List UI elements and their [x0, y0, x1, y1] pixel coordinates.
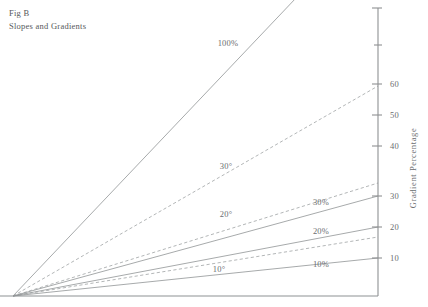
series-label-30-percent: 30%: [313, 197, 329, 207]
ray-100-percent: [13, 0, 296, 296]
tick-label-60: 60: [390, 79, 399, 89]
ray-group-percent: [13, 0, 378, 296]
tick-label-40: 40: [390, 141, 399, 151]
series-label-30-degrees: 30°: [220, 161, 233, 171]
series-labels: 100% 30° 20° 30% 20% 10° 10%: [213, 38, 329, 274]
tick-label-20: 20: [390, 222, 399, 232]
plot-rays: [13, 0, 378, 296]
y-axis-title: Gradient Percentage: [408, 128, 418, 209]
series-label-20-degrees: 20°: [220, 209, 233, 219]
series-label-10-degrees: 10°: [213, 264, 226, 274]
axes: 60 50 40 30 20 10 Gradient Percentage: [0, 8, 418, 296]
figure-root: Fig B Slopes and Gradients: [0, 0, 428, 307]
series-label-10-percent: 10%: [313, 259, 329, 269]
y-axis-tick-labels: 60 50 40 30 20 10: [390, 79, 399, 263]
tick-label-50: 50: [390, 110, 399, 120]
tick-label-10: 10: [390, 253, 399, 263]
series-label-100-percent: 100%: [218, 38, 239, 48]
tick-label-30: 30: [390, 191, 399, 201]
y-axis-ticks: [372, 8, 382, 258]
series-label-20-percent: 20%: [313, 226, 329, 236]
slopes-and-gradients-chart: 60 50 40 30 20 10 Gradient Percentage 10…: [0, 0, 428, 307]
